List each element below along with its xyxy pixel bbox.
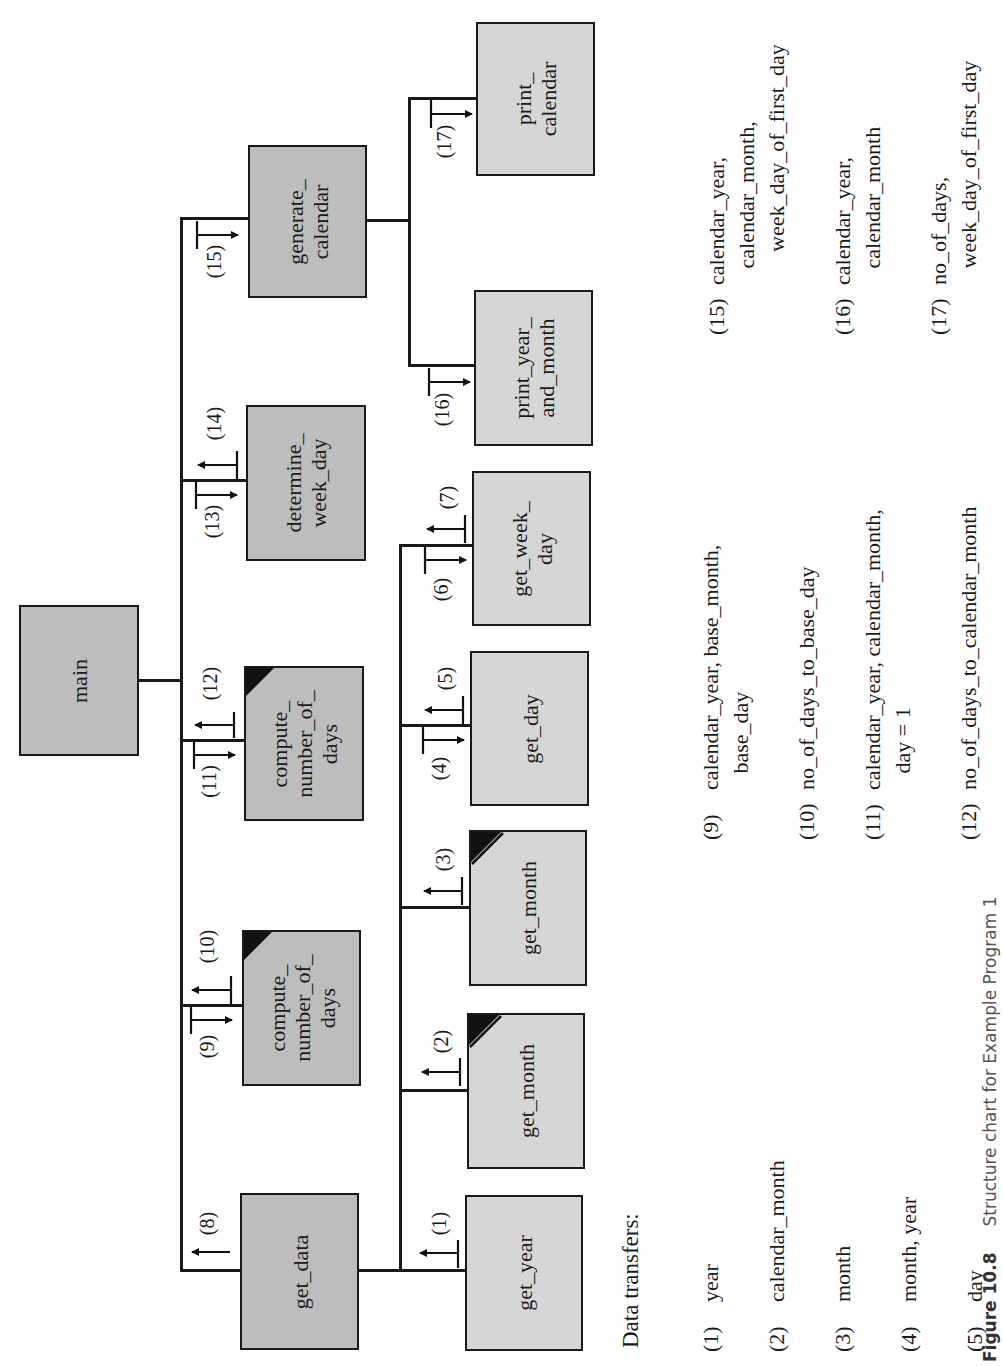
legend-text: calendar_year, calendar_month, week_day_…: [702, 44, 792, 285]
legend-column-3: (15)calendar_year, calendar_month, week_…: [666, 44, 1003, 335]
flow-label-7: (7): [436, 486, 459, 509]
legend-num: (10): [792, 790, 822, 840]
legend-item-3: (3)month: [828, 1021, 858, 1352]
flow-label-10: (10): [196, 930, 219, 963]
figure-number: Figure 10.8: [980, 1253, 1000, 1363]
flow-label-1: (1): [428, 1212, 451, 1235]
legend-num: (11): [858, 790, 918, 840]
flow-label-13: (13): [201, 505, 224, 538]
legend-text: no_of_days_to_base_day: [792, 566, 822, 790]
legend-num: (12): [954, 790, 984, 840]
flow-label-16: (16): [431, 393, 454, 426]
legend-heading-text: Data transfers:: [618, 1213, 643, 1348]
legend-item-17: (17)no_of_days, week_day_of_first_day: [924, 44, 984, 335]
legend-item-1: (1)year: [696, 1021, 726, 1352]
legend-text: month, year: [894, 1197, 924, 1302]
legend-item-12: (12)no_of_days_to_calendar_month: [954, 485, 984, 841]
legend-num: (15): [702, 285, 792, 335]
structure-chart: main get_data compute_ number_of_ days c…: [0, 0, 1003, 1366]
legend-text: month: [828, 1246, 858, 1302]
legend-num: (4): [894, 1302, 924, 1352]
flow-label-8: (8): [196, 1212, 219, 1235]
legend-column-1: (1)year (2)calendar_month (3)month (4)mo…: [660, 1021, 1003, 1352]
figure-caption: Figure 10.8Structure chart for Example P…: [980, 897, 1000, 1362]
legend-text: no_of_days, week_day_of_first_day: [924, 61, 984, 285]
flow-label-5: (5): [434, 667, 457, 690]
legend-num: (17): [924, 285, 984, 335]
flow-label-6: (6): [430, 578, 453, 601]
legend-text: calendar_year, calendar_month, day = 1: [858, 509, 918, 790]
legend-heading: Data transfers:: [618, 1213, 644, 1348]
legend-item-11: (11)calendar_year, calendar_month, day =…: [858, 485, 918, 841]
legend-text: calendar_year, calendar_month: [828, 127, 888, 285]
flow-label-2: (2): [430, 1030, 453, 1053]
legend-num: (1): [696, 1302, 726, 1352]
legend-item-10: (10)no_of_days_to_base_day: [792, 485, 822, 841]
legend-num: (9): [696, 790, 756, 840]
flow-label-11: (11): [198, 765, 221, 798]
flow-label-17: (17): [433, 125, 456, 158]
legend-item-9: (9)calendar_year, base_month, base_day: [696, 485, 756, 841]
flow-label-12: (12): [199, 667, 222, 700]
figure-caption-text: Structure chart for Example Program 1: [980, 897, 1000, 1227]
legend-text: no_of_days_to_calendar_month: [954, 507, 984, 791]
flow-label-9: (9): [196, 1035, 219, 1058]
legend-item-4: (4)month, year: [894, 1021, 924, 1352]
legend-column-2: (9)calendar_year, base_month, base_day (…: [660, 485, 1003, 841]
flow-label-15: (15): [203, 245, 226, 278]
legend-text: year: [696, 1264, 726, 1302]
legend-num: (3): [828, 1302, 858, 1352]
legend-text: calendar_month: [762, 1160, 792, 1302]
legend-num: (16): [828, 285, 888, 335]
legend-text: calendar_year, base_month, base_day: [696, 545, 756, 790]
legend-item-2: (2)calendar_month: [762, 1021, 792, 1352]
legend-item-15: (15)calendar_year, calendar_month, week_…: [702, 44, 792, 335]
flow-label-14: (14): [203, 407, 226, 440]
legend-num: (2): [762, 1302, 792, 1352]
legend-item-16: (16)calendar_year, calendar_month: [828, 44, 888, 335]
flow-label-3: (3): [432, 848, 455, 871]
flow-label-4: (4): [428, 757, 451, 780]
